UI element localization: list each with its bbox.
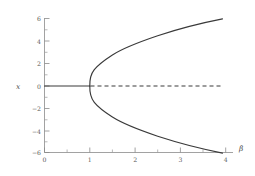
x-tick-label-3: 3	[178, 156, 182, 163]
curve-upper-stable-branch	[90, 19, 223, 86]
x-tick-label-1: 1	[88, 156, 92, 163]
data-curves-group	[45, 19, 223, 153]
y-tick-label-neg4: −4	[32, 128, 41, 135]
curve-lower-stable-branch	[90, 86, 223, 153]
bifurcation-diagram-figure: 6 4 2 0 −2 −4 −6 0 1 2 3 4 x β	[0, 0, 255, 176]
x-tick-label-2: 2	[133, 156, 137, 163]
y-axis-title: x	[16, 82, 21, 91]
y-tick-label-neg6: −6	[32, 149, 41, 156]
y-tick-label-6: 6	[37, 15, 41, 22]
x-tick-label-4: 4	[224, 156, 228, 163]
x-tick-label-0: 0	[43, 156, 47, 163]
y-tick-label-2: 2	[37, 60, 41, 67]
y-tick-label-4: 4	[37, 38, 41, 45]
y-tick-label-0: 0	[37, 83, 41, 90]
x-axis-title: β	[238, 144, 243, 153]
y-tick-label-neg2: −2	[32, 105, 41, 112]
axes-group	[45, 18, 234, 153]
plot-canvas: 6 4 2 0 −2 −4 −6 0 1 2 3 4 x β	[0, 0, 255, 176]
